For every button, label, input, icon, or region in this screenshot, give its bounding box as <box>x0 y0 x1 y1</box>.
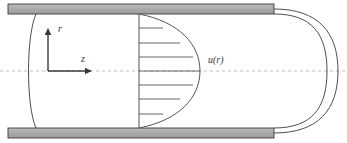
radial-axis-label: r <box>58 23 62 34</box>
pipe-top-wall <box>8 4 274 14</box>
velocity-profile-label: u(r) <box>208 54 224 66</box>
axial-axis-label: z <box>80 53 85 64</box>
pipe-bottom-wall <box>8 128 274 138</box>
velocity-vector-group <box>139 28 200 114</box>
figure-canvas: r z u(r) <box>0 0 347 143</box>
pipe-flow-figure: r z u(r) <box>0 0 347 143</box>
